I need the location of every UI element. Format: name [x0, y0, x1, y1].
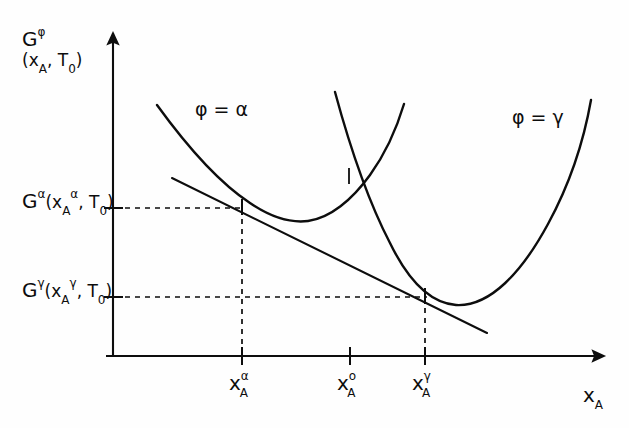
g-alpha-mid: , T	[78, 192, 99, 212]
free-energy-diagram: Gφ (xA, T0) Gα(xAα, T0) Gγ(xAγ, T0) xαA …	[0, 0, 629, 428]
y-axis-title-args-mid: , T	[47, 50, 68, 70]
x-zero-sub: A	[347, 386, 355, 400]
x-alpha-sup: α	[241, 369, 249, 383]
x-alpha-sub: A	[240, 386, 248, 400]
alpha-free-energy-curve	[157, 104, 404, 221]
y-axis-title-sup: φ	[38, 25, 46, 39]
y-axis-title-args-sub: A	[39, 62, 47, 76]
g-alpha-base: G	[22, 189, 38, 213]
g-gamma-base: G	[22, 278, 38, 302]
g-gamma-mid: , T	[77, 281, 98, 301]
x-axis-title-base: x	[583, 383, 595, 407]
g-gamma-open: (x	[45, 281, 62, 301]
g-gamma-sup: γ	[38, 276, 45, 290]
g-alpha-mid-sub: 0	[99, 204, 107, 218]
y-axis-title-base: G	[22, 27, 38, 51]
x-gamma-sup: γ	[424, 369, 431, 383]
x-gamma-sub: A	[422, 386, 430, 400]
y-axis-title-args-close: )	[76, 50, 83, 70]
g-alpha-open: (x	[45, 192, 62, 212]
g-alpha-arg-sub: A	[62, 204, 70, 218]
x-axis-title: xA	[583, 385, 603, 409]
g-gamma-arg-sup: γ	[70, 276, 77, 290]
x-axis-title-sub: A	[595, 398, 603, 412]
y-axis-title-args-open: (x	[22, 50, 39, 70]
g-gamma-arg-sub: A	[61, 293, 69, 307]
y-axis-title: Gφ (xA, T0)	[22, 28, 82, 73]
alpha-curve-label: φ = α	[195, 100, 248, 119]
x-tick-label-x-zero: xoA	[337, 372, 355, 397]
gamma-curve-label: φ = γ	[512, 108, 564, 127]
g-alpha-close: )	[107, 192, 114, 212]
y-axis-title-args-mid-sub: 0	[68, 62, 76, 76]
x-tick-label-x-alpha: xαA	[229, 372, 248, 397]
x-tick-label-x-gamma: xγA	[412, 372, 430, 397]
g-alpha-arg-sup: α	[70, 187, 78, 201]
y-tick-label-g-gamma: Gγ(xAγ, T0)	[22, 279, 112, 304]
g-gamma-close: )	[105, 281, 112, 301]
common-tangent-line	[172, 178, 487, 333]
x-zero-sup: o	[349, 369, 356, 383]
g-alpha-sup: α	[38, 187, 46, 201]
y-tick-label-g-alpha: Gα(xAα, T0)	[22, 190, 114, 215]
g-gamma-mid-sub: 0	[98, 293, 106, 307]
